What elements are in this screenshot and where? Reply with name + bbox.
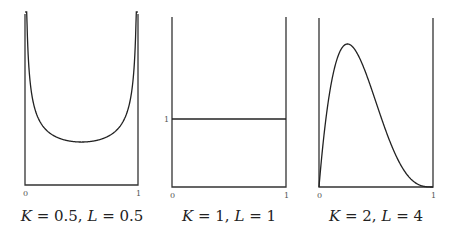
panel-2-plot: 1 0 1 [164,17,289,200]
param-l-value: = 0.5 [97,207,143,225]
panel-1-plot: 0 1 [23,12,141,198]
panel-3-x-tick-0: 0 [317,191,322,200]
panel-2-x-tick-1: 1 [284,191,289,200]
param-l-symbol: L [234,207,244,225]
panel-1-x-tick-1: 1 [136,189,141,198]
panel-2-caption: K = 1, L = 1 [154,207,304,225]
beta-distribution-plots: 0 1 1 0 1 0 1 [0,0,462,239]
panel-3-plot: 0 1 [317,18,436,200]
panel-1-curve [25,12,138,142]
panel-3-x-tick-1: 1 [431,191,436,200]
param-k-value: = 2, [340,207,381,225]
param-k-symbol: K [329,207,340,225]
panel-2-x-tick-0: 0 [170,191,175,200]
param-k-value: = 0.5, [32,207,88,225]
param-l-symbol: L [87,207,97,225]
param-k-symbol: K [21,207,32,225]
param-k-symbol: K [182,207,193,225]
panel-3-caption: K = 2, L = 4 [301,207,451,225]
panel-3-curve [319,44,433,187]
panel-1-x-tick-0: 0 [23,189,28,198]
panel-1-axes [25,14,138,185]
param-l-symbol: L [381,207,391,225]
panel-2-y-tick-1: 1 [164,115,169,124]
panel-1-caption: K = 0.5, L = 0.5 [7,207,157,225]
param-l-value: = 1 [244,207,276,225]
panel-2-axes [172,17,286,187]
param-k-value: = 1, [193,207,234,225]
param-l-value: = 4 [391,207,423,225]
